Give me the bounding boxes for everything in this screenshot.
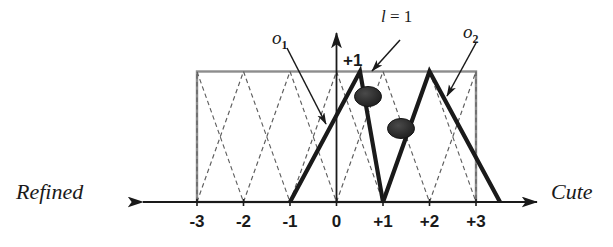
series-label-o1-text: o [272,27,282,48]
axis-label-cute: Cute [551,181,593,203]
x-tick-label-plus3: +3 [466,213,485,230]
leader-o1 [287,48,326,124]
x-tick-label-zero: 0 [332,213,341,230]
x-tick-label-plus2: +2 [420,213,439,230]
x-tick-label-minus2: -2 [236,213,251,230]
series-label-o2: o2 [463,22,479,45]
intersection-markers [355,87,415,139]
series-label-o1: o1 [272,28,288,51]
intersection-marker-lower [388,119,415,139]
axis-label-refined: Refined [16,181,83,203]
fuzzy-membership-figure: Refined Cute +1 o1 o2 l = 1 -3 -2 -1 0 +… [0,0,613,247]
intersection-marker-upper [355,87,382,107]
series-label-o2-text: o [463,21,473,42]
series-label-o1-subscript: 1 [282,38,288,52]
membership-plot-svg [0,0,613,247]
annotation-l-value: = 1 [386,7,413,26]
series-label-o2-subscript: 2 [473,32,479,46]
leader-o2 [447,43,476,96]
x-tick-label-minus1: -1 [282,213,297,230]
peak-value-label: +1 [343,52,362,69]
x-tick-label-minus3: -3 [189,213,204,230]
leader-l-equals-1 [372,40,400,71]
annotation-l-equals-1: l = 1 [381,8,412,25]
x-tick-label-plus1: +1 [373,213,392,230]
